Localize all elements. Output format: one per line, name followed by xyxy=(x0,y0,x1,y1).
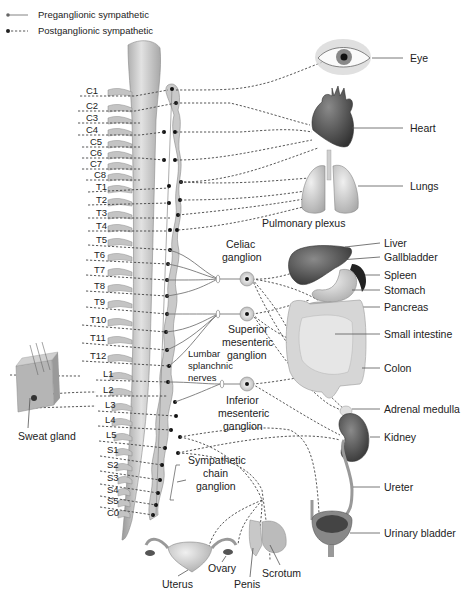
lungs-organ: Lungs Pulmonary plexus xyxy=(262,150,439,229)
inferior-mesenteric-ganglion: Inferior mesenteric ganglion xyxy=(218,377,269,432)
segment-label: T7 xyxy=(94,264,105,275)
segment-label: T3 xyxy=(96,207,107,218)
segment-label: S2 xyxy=(107,459,119,470)
small-intestine-label: Small intestine xyxy=(384,328,452,340)
stomach-label: Stomach xyxy=(384,284,426,296)
ureter-label: Ureter xyxy=(384,481,414,493)
colon-organ: Colon xyxy=(362,362,412,374)
ovary-label: Ovary xyxy=(208,562,237,574)
sweat-gland-organ: Sweat gland xyxy=(16,342,76,442)
sympathetic-chain-ganglion-label: Sympathetic chain ganglion xyxy=(170,454,246,500)
segment-label: T5 xyxy=(96,234,107,245)
inferior-mesenteric-label-1: Inferior xyxy=(226,394,259,406)
lumbar-label-1: Lumbar xyxy=(188,348,220,359)
inferior-mesenteric-label-3: ganglion xyxy=(223,420,263,432)
adrenal-medulla-label: Adrenal medulla xyxy=(384,403,460,415)
segment-label: T12 xyxy=(90,350,106,361)
superior-mesenteric-label-3: ganglion xyxy=(227,349,267,361)
legend: Preganglionic sympathetic Postganglionic… xyxy=(6,9,153,36)
segment-label: L1 xyxy=(103,368,114,379)
legend-preganglionic: Preganglionic sympathetic xyxy=(6,9,149,20)
segment-label: T11 xyxy=(90,332,106,343)
lungs-label: Lungs xyxy=(410,180,439,192)
gallbladder-label: Gallbladder xyxy=(384,251,438,263)
pulmonary-plexus-label: Pulmonary plexus xyxy=(262,217,345,229)
scrotum-label: Scrotum xyxy=(262,567,301,579)
segment-label: T10 xyxy=(90,314,106,325)
segment-label: T9 xyxy=(94,296,105,307)
segment-label: C3 xyxy=(86,112,98,123)
eye-label: Eye xyxy=(410,52,428,64)
segment-label: T1 xyxy=(96,181,107,192)
celiac-ganglion-label-1: Celiac xyxy=(226,238,255,250)
segment-label: C2 xyxy=(86,100,98,111)
segment-label: T8 xyxy=(94,280,105,291)
uterus-label: Uterus xyxy=(162,578,193,590)
segment-label: C4 xyxy=(86,124,98,135)
segment-label: S5 xyxy=(107,495,119,506)
segment-label: C7 xyxy=(90,158,102,169)
lumbar-label-2: splanchnic xyxy=(188,360,233,371)
segment-label: C8 xyxy=(94,169,106,180)
kidney-organ: Kidney xyxy=(339,413,417,461)
ovary-organ: Ovary xyxy=(208,549,237,574)
kidney-label: Kidney xyxy=(384,431,417,443)
pancreas-label: Pancreas xyxy=(384,301,428,313)
segment-label: T4 xyxy=(96,220,107,231)
chain-label-1: Sympathetic xyxy=(188,454,246,466)
penis-label: Penis xyxy=(234,578,260,590)
eye-organ: Eye xyxy=(315,39,428,75)
legend-preganglionic-label: Preganglionic sympathetic xyxy=(38,9,149,20)
heart-label: Heart xyxy=(410,122,436,134)
segment-label: L4 xyxy=(105,414,116,425)
lumbar-label-3: nerves xyxy=(188,372,217,383)
segment-label: S1 xyxy=(107,444,119,455)
colon-label: Colon xyxy=(384,362,412,374)
celiac-ganglion-label-2: ganglion xyxy=(222,251,262,263)
urinary-bladder-organ: Urinary bladder xyxy=(312,500,456,557)
inferior-mesenteric-label-2: mesenteric xyxy=(218,407,269,419)
spleen-label: Spleen xyxy=(384,269,417,281)
adrenal-medulla-organ: Adrenal medulla xyxy=(340,403,460,416)
legend-postganglionic: Postganglionic sympathetic xyxy=(6,25,153,36)
chain-label-3: ganglion xyxy=(196,480,236,492)
sympathetic-nervous-system-diagram: Preganglionic sympathetic Postganglionic… xyxy=(0,0,471,591)
sweat-gland-label: Sweat gland xyxy=(18,430,76,442)
chain-label-2: chain xyxy=(203,467,228,479)
superior-mesenteric-ganglion: Superior mesenteric ganglion xyxy=(222,307,273,361)
superior-mesenteric-label-2: mesenteric xyxy=(222,336,273,348)
segment-label: L2 xyxy=(103,384,114,395)
scrotum-organ: Scrotum xyxy=(262,521,301,579)
small-intestine-organ: Small intestine xyxy=(286,300,452,398)
legend-postganglionic-label: Postganglionic sympathetic xyxy=(38,25,153,36)
urinary-bladder-label: Urinary bladder xyxy=(384,527,456,539)
segment-label: C6 xyxy=(90,147,102,158)
gallbladder-organ: Gallbladder xyxy=(340,251,438,263)
heart-organ: Heart xyxy=(312,86,436,147)
superior-mesenteric-label-1: Superior xyxy=(228,323,268,335)
segment-label: L3 xyxy=(105,399,116,410)
segment-label: L5 xyxy=(106,429,117,440)
segment-label: C5 xyxy=(90,136,102,147)
liver-label: Liver xyxy=(384,237,407,249)
segment-label: T6 xyxy=(94,249,105,260)
segment-label: C1 xyxy=(86,85,98,96)
segment-label: T2 xyxy=(96,194,107,205)
penis-organ: Penis xyxy=(234,520,262,590)
